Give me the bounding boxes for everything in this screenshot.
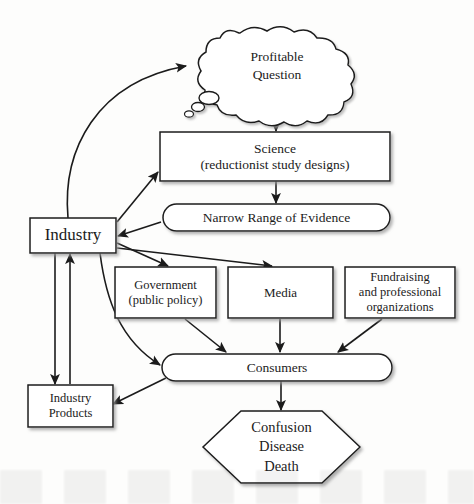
node-government	[115, 267, 216, 318]
node-narrow-range-of-evidence	[163, 204, 390, 231]
edge-industry-to-government	[117, 243, 168, 266]
edge-industry-to-science	[117, 172, 158, 222]
flowchart-diagram: Profitable Question Science (reductionis…	[0, 0, 474, 504]
node-profitable-question	[185, 27, 355, 126]
node-media	[228, 267, 333, 318]
edge-government-to-consumers	[185, 319, 226, 352]
edge-narrow-range-to-industry	[118, 222, 161, 236]
node-industry	[30, 218, 116, 253]
node-science	[160, 132, 390, 181]
diagram-canvas	[0, 0, 474, 504]
edge-consumers-to-industry-products	[113, 378, 166, 404]
edge-industry-to-media	[117, 248, 272, 266]
node-consumers	[162, 354, 392, 381]
node-outcome	[203, 411, 360, 483]
node-industry-products	[28, 385, 113, 427]
edge-fundraising-to-consumers	[338, 319, 382, 352]
node-fundraising	[345, 267, 455, 318]
